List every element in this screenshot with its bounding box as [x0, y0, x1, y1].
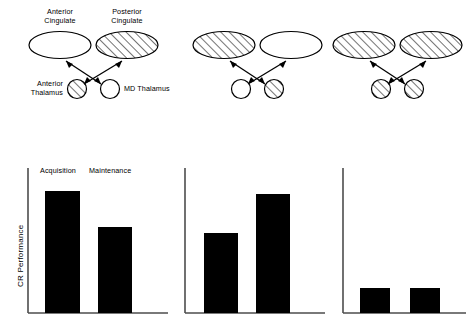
- node-anterior-cingulate: [193, 32, 255, 59]
- node-anterior-thalamus: [68, 80, 87, 99]
- chart-1-graphic: [0, 155, 180, 327]
- chart-3: [338, 155, 476, 327]
- node-anterior-thalamus: [372, 80, 391, 99]
- node-posterior-cingulate: [260, 32, 322, 59]
- label-posterior-cingulate: Posterior Cingulate: [91, 8, 163, 25]
- chart-2-graphic: [180, 155, 335, 327]
- label-anterior-thalamus: Anterior Thalamus: [2, 80, 63, 97]
- chart-3-graphic: [338, 155, 476, 327]
- figure-root: Anterior Cingulate Posterior Cingulate A…: [0, 0, 476, 327]
- label-md-thalamus: MD Thalamus: [124, 85, 170, 94]
- diagram-2: [188, 0, 338, 115]
- bar-acquisition: [45, 191, 80, 313]
- chart-1: Acquisition Maintenance CR Performance: [0, 155, 180, 327]
- bar-acquisition: [204, 233, 238, 313]
- node-posterior-cingulate: [400, 32, 462, 59]
- bar-maintenance: [98, 227, 132, 313]
- bar-label-acquisition: Acquisition: [40, 166, 76, 175]
- diagram-3-graphic: [330, 0, 476, 115]
- node-md-thalamus: [265, 80, 284, 99]
- node-posterior-cingulate: [96, 32, 158, 59]
- diagram-1: Anterior Cingulate Posterior Cingulate A…: [0, 0, 190, 115]
- node-anterior-cingulate: [333, 32, 395, 59]
- bar-maintenance: [410, 288, 440, 313]
- node-anterior-cingulate: [29, 32, 91, 59]
- label-anterior-cingulate: Anterior Cingulate: [24, 8, 96, 25]
- bar-maintenance: [256, 194, 290, 313]
- node-md-thalamus: [405, 80, 424, 99]
- diagram-2-graphic: [188, 0, 338, 115]
- node-md-thalamus: [101, 80, 120, 99]
- bar-label-maintenance: Maintenance: [89, 166, 131, 175]
- diagram-3: [330, 0, 476, 115]
- chart-2: [180, 155, 335, 327]
- bar-acquisition: [360, 288, 390, 313]
- node-anterior-thalamus: [232, 80, 251, 99]
- y-axis-label: CR Performance: [16, 225, 25, 287]
